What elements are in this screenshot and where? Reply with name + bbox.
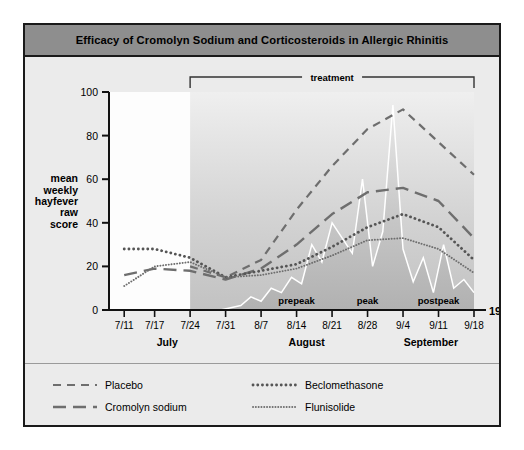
- x-tick-label: 7/24: [180, 320, 200, 331]
- y-axis-title-line: mean: [51, 172, 78, 184]
- annotation-postpeak: postpeak: [418, 295, 460, 306]
- treatment-bracket: treatment: [190, 72, 474, 88]
- y-tick-label: 40: [86, 217, 98, 229]
- x-tick-label: 9/18: [464, 320, 484, 331]
- treatment-bracket-right: [362, 77, 474, 88]
- treatment-label: treatment: [310, 72, 354, 83]
- y-tick-label: 20: [86, 260, 98, 272]
- month-label: August: [289, 336, 326, 348]
- x-tick-label: 8/7: [254, 320, 268, 331]
- figure-frame: Efficacy of Cromolyn Sodium and Corticos…: [23, 23, 501, 427]
- legend-item-flunisolide: Flunisolide: [253, 401, 355, 413]
- x-tick-label: 7/31: [216, 320, 236, 331]
- y-axis-title-line: weekly: [43, 184, 79, 196]
- chart-svg: 020406080100meanweeklyhayfeverrawscore7/…: [25, 59, 499, 393]
- y-axis-title-line: score: [50, 218, 78, 230]
- legend-label: Cromolyn sodium: [105, 401, 187, 413]
- year-label: 1984: [489, 305, 499, 317]
- x-tick-label: 8/14: [287, 320, 307, 331]
- x-tick-label: 9/4: [396, 320, 410, 331]
- treatment-bracket-left: [190, 77, 302, 88]
- legend-label: Flunisolide: [305, 401, 355, 413]
- chart-figure: Efficacy of Cromolyn Sodium and Corticos…: [0, 0, 524, 450]
- y-axis-title-line: hayfever: [35, 195, 78, 207]
- y-tick-label: 100: [80, 86, 98, 98]
- legend-divider: [25, 363, 499, 364]
- legend-item-cromolyn-sodium: Cromolyn sodium: [53, 401, 187, 413]
- y-tick-label: 60: [86, 173, 98, 185]
- legend-item-placebo: Placebo: [53, 379, 143, 391]
- x-tick-label: 7/17: [145, 320, 165, 331]
- legend-label: Placebo: [105, 379, 143, 391]
- y-tick-label: 80: [86, 130, 98, 142]
- chart-legend: PlaceboBeclomethasoneCromolyn sodiumFlun…: [25, 363, 499, 425]
- x-tick-label: 9/11: [429, 320, 448, 331]
- figure-title-bar: Efficacy of Cromolyn Sodium and Corticos…: [25, 25, 499, 57]
- annotation-prepeak: prepeak: [278, 295, 315, 306]
- x-tick-label: 7/11: [115, 320, 134, 331]
- y-axis-title-line: raw: [60, 206, 79, 218]
- x-tick-label: 8/21: [322, 320, 342, 331]
- chart-plot-region: 020406080100meanweeklyhayfeverrawscore7/…: [25, 59, 499, 393]
- annotation-peak: peak: [357, 295, 379, 306]
- legend-label: Beclomethasone: [305, 379, 383, 391]
- y-tick-label: 0: [92, 304, 98, 316]
- month-label: September: [404, 336, 458, 348]
- legend-svg: PlaceboBeclomethasoneCromolyn sodiumFlun…: [25, 363, 499, 425]
- month-label: July: [157, 336, 178, 348]
- x-tick-label: 8/28: [358, 320, 378, 331]
- legend-item-beclomethasone: Beclomethasone: [253, 379, 383, 391]
- page-title: Efficacy of Cromolyn Sodium and Corticos…: [76, 34, 449, 46]
